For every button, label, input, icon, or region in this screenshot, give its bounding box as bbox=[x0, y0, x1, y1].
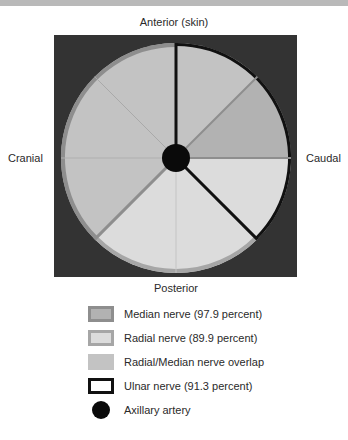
legend-label: Ulnar nerve (91.3 percent) bbox=[124, 380, 252, 392]
overlap-swatch-icon bbox=[88, 354, 114, 370]
ulnar-swatch-icon bbox=[88, 378, 114, 394]
top-border-band bbox=[0, 0, 348, 6]
legend-label: Radial/Median nerve overlap bbox=[124, 356, 264, 368]
legend-item-radial: Radial nerve (89.9 percent) bbox=[88, 327, 308, 348]
legend-label: Median nerve (97.9 percent) bbox=[124, 308, 262, 320]
diagram-svg bbox=[54, 35, 297, 277]
label-anterior: Anterior (skin) bbox=[0, 16, 348, 28]
legend-item-artery: Axillary artery bbox=[88, 399, 308, 420]
legend-item-overlap: Radial/Median nerve overlap bbox=[88, 351, 308, 372]
label-cranial: Cranial bbox=[8, 152, 43, 164]
radial-swatch-icon bbox=[88, 330, 114, 346]
label-caudal: Caudal bbox=[306, 152, 341, 164]
median-swatch-icon bbox=[88, 306, 114, 322]
legend-label: Radial nerve (89.9 percent) bbox=[124, 332, 257, 344]
artery-dot-icon bbox=[92, 401, 110, 419]
legend-item-median: Median nerve (97.9 percent) bbox=[88, 303, 308, 324]
label-posterior: Posterior bbox=[0, 282, 348, 294]
legend-item-ulnar: Ulnar nerve (91.3 percent) bbox=[88, 375, 308, 396]
axillary-artery-marker bbox=[162, 144, 190, 172]
legend-label: Axillary artery bbox=[124, 404, 191, 416]
nerve-distribution-diagram bbox=[54, 35, 297, 277]
legend: Median nerve (97.9 percent) Radial nerve… bbox=[88, 303, 308, 423]
